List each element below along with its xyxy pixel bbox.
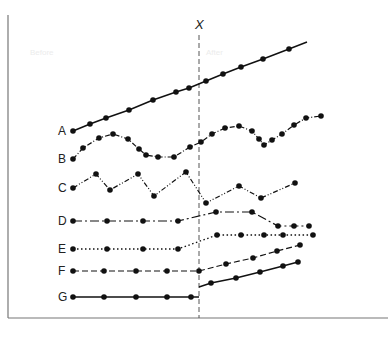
- series-d: D: [58, 209, 312, 229]
- data-point: [80, 145, 86, 151]
- data-point: [101, 294, 107, 300]
- diagram-canvas: BeforeAfter X ABCDEFG: [0, 0, 392, 338]
- data-point: [209, 131, 215, 137]
- data-point: [238, 232, 244, 238]
- data-point: [110, 131, 116, 137]
- data-point: [280, 232, 286, 238]
- data-point: [223, 261, 229, 267]
- series-label: A: [58, 124, 66, 138]
- data-point: [150, 97, 156, 103]
- data-point: [249, 209, 255, 215]
- data-point: [70, 268, 76, 274]
- data-point: [187, 144, 193, 150]
- faint-label: After: [206, 48, 223, 57]
- data-point: [125, 136, 131, 142]
- x-marker-label: X: [194, 17, 205, 32]
- data-point: [70, 185, 76, 191]
- data-point: [173, 89, 179, 95]
- data-point: [297, 242, 303, 248]
- data-point: [274, 248, 280, 254]
- data-point: [292, 180, 298, 186]
- series-label: C: [58, 181, 67, 195]
- data-point: [214, 232, 220, 238]
- data-point: [140, 218, 146, 224]
- data-point: [256, 136, 262, 142]
- data-point: [198, 139, 204, 145]
- data-point: [233, 275, 239, 281]
- data-point: [183, 169, 189, 175]
- faint-label: Before: [30, 48, 54, 57]
- data-point: [70, 156, 76, 162]
- data-point: [303, 115, 309, 121]
- data-point: [291, 122, 297, 128]
- data-point: [208, 280, 214, 286]
- series-label: D: [58, 214, 67, 228]
- data-point: [279, 131, 285, 137]
- data-point: [175, 246, 181, 252]
- data-point: [220, 71, 226, 77]
- data-point: [286, 46, 292, 52]
- data-point: [143, 152, 149, 158]
- data-point: [101, 268, 107, 274]
- data-point: [213, 209, 219, 215]
- data-point: [126, 107, 132, 113]
- data-point: [70, 246, 76, 252]
- data-point: [269, 137, 275, 143]
- series-line: [73, 116, 321, 159]
- data-point: [236, 123, 242, 129]
- series-label: F: [58, 264, 65, 278]
- data-point: [257, 269, 263, 275]
- data-point: [275, 223, 281, 229]
- data-point: [310, 232, 316, 238]
- data-point: [70, 128, 76, 134]
- data-point: [164, 294, 170, 300]
- data-point: [104, 246, 110, 252]
- data-point: [96, 135, 102, 141]
- data-point: [238, 64, 244, 70]
- data-point: [133, 268, 139, 274]
- data-point: [306, 223, 312, 229]
- data-point: [291, 223, 297, 229]
- data-point: [70, 218, 76, 224]
- series-label: B: [58, 152, 66, 166]
- data-point: [107, 187, 113, 193]
- data-point: [261, 142, 267, 148]
- data-point: [196, 268, 202, 274]
- series-g: G: [58, 259, 301, 304]
- data-point: [151, 193, 157, 199]
- data-point: [188, 294, 194, 300]
- data-point: [135, 171, 141, 177]
- data-point: [236, 183, 242, 189]
- series-line: [73, 235, 313, 249]
- data-point: [70, 294, 76, 300]
- data-point: [93, 171, 99, 177]
- data-point: [203, 200, 209, 206]
- faint-background-labels: BeforeAfter: [30, 48, 223, 57]
- data-point: [103, 115, 109, 121]
- series-label: E: [58, 242, 66, 256]
- data-point: [318, 113, 324, 119]
- data-point: [104, 218, 110, 224]
- series-label: G: [58, 290, 67, 304]
- series-c: C: [58, 169, 298, 206]
- data-point: [222, 125, 228, 131]
- data-point: [260, 56, 266, 62]
- data-point: [280, 263, 286, 269]
- series-a: A: [58, 42, 307, 138]
- data-point: [87, 121, 93, 127]
- data-point: [261, 232, 267, 238]
- data-point: [295, 259, 301, 265]
- series-group: ABCDEFG: [58, 42, 324, 304]
- data-point: [249, 128, 255, 134]
- data-point: [175, 218, 181, 224]
- data-point: [136, 146, 142, 152]
- data-point: [203, 78, 209, 84]
- data-point: [250, 255, 256, 261]
- data-point: [133, 294, 139, 300]
- data-point: [140, 246, 146, 252]
- data-point: [164, 268, 170, 274]
- data-point: [155, 154, 161, 160]
- data-point: [171, 154, 177, 160]
- data-point: [258, 195, 264, 201]
- data-point: [186, 85, 192, 91]
